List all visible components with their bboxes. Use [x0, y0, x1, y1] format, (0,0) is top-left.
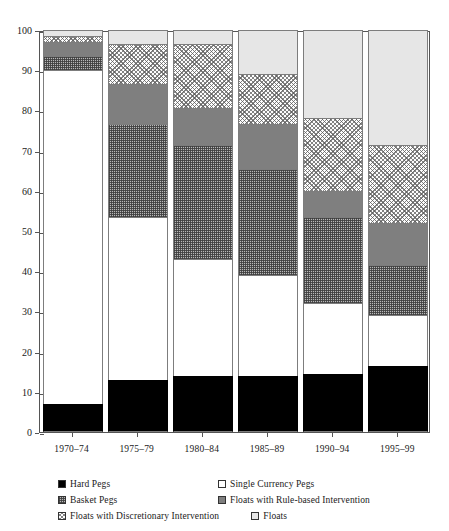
bar-segment-basket-pegs — [108, 124, 168, 216]
bar-segment-single-currency-pegs — [368, 315, 428, 365]
bar-1985-89 — [238, 30, 298, 432]
y-axis-tick-mark — [35, 433, 39, 434]
bar-segment-single-currency-pegs — [43, 70, 103, 404]
bar-segment-discretionary — [43, 36, 103, 42]
bar-segment-discretionary — [108, 44, 168, 84]
bar-segment-hard-pegs — [43, 404, 103, 432]
legend-row: Floats with Discretionary InterventionFl… — [58, 508, 418, 524]
bar-segment-floats — [173, 30, 233, 44]
bar-segment-single-currency-pegs — [173, 259, 233, 376]
bar-segment-single-currency-pegs — [303, 303, 363, 373]
y-axis-tick-label: 30 — [22, 305, 32, 318]
bar-segment-floats — [238, 30, 298, 74]
bar-segment-single-currency-pegs — [108, 217, 168, 380]
y-axis-tick-label: 60 — [22, 185, 32, 198]
legend-item-rule-based[interactable]: Floats with Rule-based Intervention — [218, 494, 418, 507]
y-axis-tick-label: 40 — [22, 265, 32, 278]
bar-segment-discretionary — [303, 118, 363, 190]
x-axis-tick-mark — [72, 433, 73, 437]
bar-segment-floats — [108, 30, 168, 44]
legend-swatch-rule-based-icon — [218, 496, 226, 504]
x-axis-tick-mark — [202, 433, 203, 437]
bar-segment-rule-based — [368, 223, 428, 265]
bar-1995-99 — [368, 30, 428, 432]
x-axis-tick-label: 1995–99 — [357, 443, 437, 456]
legend-label: Floats with Rule-based Intervention — [230, 494, 370, 507]
x-axis-tick-mark — [137, 433, 138, 437]
bar-segment-discretionary — [173, 44, 233, 108]
bar-segment-basket-pegs — [368, 265, 428, 315]
plot-area — [39, 31, 430, 433]
legend-swatch-discretionary-icon — [58, 512, 66, 520]
x-axis-tick-mark — [397, 433, 398, 437]
legend-item-single-currency-pegs[interactable]: Single Currency Pegs — [218, 478, 418, 491]
bar-segment-hard-pegs — [238, 376, 298, 432]
bar-segment-basket-pegs — [173, 145, 233, 260]
bar-segment-floats — [368, 30, 428, 145]
bar-segment-basket-pegs — [43, 56, 103, 70]
bar-segment-hard-pegs — [303, 374, 363, 432]
bar-segment-floats — [303, 30, 363, 118]
legend-label: Single Currency Pegs — [230, 478, 314, 491]
legend-swatch-hard-pegs-icon — [58, 480, 66, 488]
legend-label: Hard Pegs — [70, 478, 110, 491]
bar-1990-94 — [303, 30, 363, 432]
legend-label: Floats with Discretionary Intervention — [70, 510, 219, 523]
bar-segment-hard-pegs — [108, 380, 168, 432]
bar-segment-rule-based — [108, 84, 168, 124]
x-axis-tick-mark — [267, 433, 268, 437]
legend-label: Floats — [263, 510, 287, 523]
legend-swatch-single-currency-pegs-icon — [218, 480, 226, 488]
legend-row: Basket PegsFloats with Rule-based Interv… — [58, 492, 418, 508]
x-axis-tick-mark — [332, 433, 333, 437]
bar-1970-74 — [43, 30, 103, 432]
bar-1975-79 — [108, 30, 168, 432]
bar-segment-discretionary — [368, 145, 428, 223]
bar-segment-hard-pegs — [173, 376, 233, 432]
chart-legend: Hard PegsSingle Currency PegsBasket Pegs… — [58, 476, 418, 524]
bar-segment-basket-pegs — [303, 217, 363, 303]
y-axis-tick-label: 90 — [22, 64, 32, 77]
bar-1980-84 — [173, 30, 233, 432]
y-axis-tick-label: 0 — [27, 426, 32, 439]
bar-segment-basket-pegs — [238, 169, 298, 276]
y-axis-tick-label: 70 — [22, 145, 32, 158]
y-axis-tick-inner — [40, 434, 44, 435]
bar-segment-single-currency-pegs — [238, 275, 298, 376]
y-axis-tick-label: 100 — [17, 24, 32, 37]
y-axis-tick-label: 10 — [22, 386, 32, 399]
bar-segment-rule-based — [173, 108, 233, 144]
y-axis-tick-label: 20 — [22, 346, 32, 359]
bar-segment-floats — [43, 30, 103, 36]
legend-item-basket-pegs[interactable]: Basket Pegs — [58, 494, 218, 507]
legend-label: Basket Pegs — [70, 494, 117, 507]
y-axis-tick-label: 80 — [22, 104, 32, 117]
legend-item-hard-pegs[interactable]: Hard Pegs — [58, 478, 218, 491]
bar-segment-hard-pegs — [368, 366, 428, 432]
y-axis-tick-label: 50 — [22, 225, 32, 238]
legend-row: Hard PegsSingle Currency Pegs — [58, 476, 418, 492]
legend-swatch-basket-pegs-icon — [58, 496, 66, 504]
bar-segment-rule-based — [303, 191, 363, 217]
bar-segment-discretionary — [238, 74, 298, 124]
legend-swatch-floats-icon — [251, 512, 259, 520]
stacked-bar-chart-figure: 0102030405060708090100 1970–741975–79198… — [0, 0, 449, 531]
bar-segment-rule-based — [43, 42, 103, 56]
legend-item-discretionary[interactable]: Floats with Discretionary Intervention — [58, 510, 251, 523]
bar-segment-rule-based — [238, 124, 298, 168]
legend-item-floats[interactable]: Floats — [251, 510, 418, 523]
